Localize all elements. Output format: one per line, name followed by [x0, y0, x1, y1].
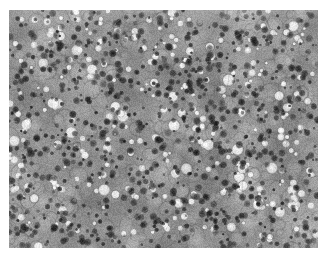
- page-root: [0, 0, 328, 258]
- micrograph-image: [9, 10, 318, 248]
- micrograph-canvas: [9, 10, 318, 248]
